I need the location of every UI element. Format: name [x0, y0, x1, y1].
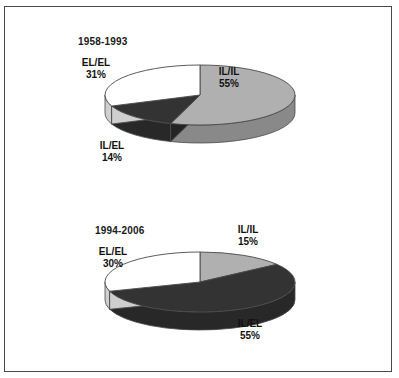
- chart-1-label-ilel-pct: 14%: [90, 152, 134, 164]
- chart-1-label-ilil-pct: 55%: [209, 78, 249, 90]
- chart-2-label-ilel-pct: 55%: [228, 330, 272, 342]
- figure-canvas: 1958-1993 EL/EL 31% IL/IL 55% IL/EL 14% …: [0, 0, 399, 378]
- chart-2-label-ilel-name: IL/EL: [228, 318, 272, 330]
- pie-chart-1994-2006: 1994-2006 EL/EL 30% IL/IL 15% IL/EL 55%: [0, 189, 399, 378]
- chart-2-label-elel-pct: 30%: [90, 258, 136, 270]
- pie-graphic-2: [0, 189, 399, 378]
- chart-1-title: 1958-1993: [78, 36, 128, 47]
- pie-chart-1958-1993: 1958-1993 EL/EL 31% IL/IL 55% IL/EL 14%: [0, 0, 399, 189]
- chart-2-label-ilil: IL/IL 15%: [228, 224, 268, 248]
- chart-1-label-elel: EL/EL 31%: [73, 57, 119, 81]
- chart-2-label-elel-name: EL/EL: [90, 246, 136, 258]
- chart-1-label-ilil-name: IL/IL: [209, 66, 249, 78]
- chart-1-label-elel-pct: 31%: [73, 69, 119, 81]
- chart-2-label-ilil-name: IL/IL: [228, 224, 268, 236]
- chart-1-label-ilel-name: IL/EL: [90, 140, 134, 152]
- chart-2-label-ilel: IL/EL 55%: [228, 318, 272, 342]
- chart-1-label-ilel: IL/EL 14%: [90, 140, 134, 164]
- chart-1-label-elel-name: EL/EL: [73, 57, 119, 69]
- chart-2-label-elel: EL/EL 30%: [90, 246, 136, 270]
- pie-graphic-1: [0, 0, 399, 189]
- chart-2-title: 1994-2006: [95, 225, 145, 236]
- chart-1-label-ilil: IL/IL 55%: [209, 66, 249, 90]
- chart-2-label-ilil-pct: 15%: [228, 236, 268, 248]
